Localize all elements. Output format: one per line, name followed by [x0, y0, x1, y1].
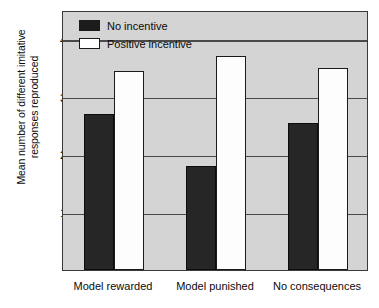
bar-model-rewarded-positive-incentive [114, 71, 144, 270]
bar-model-punished-positive-incentive [216, 56, 246, 270]
legend-item-positive-incentive: Positive incentive [79, 36, 192, 51]
x-tick-label-model-rewarded: Model rewarded [74, 280, 153, 292]
legend-swatch-positive-incentive [79, 38, 100, 49]
y-axis-title-line-1: Mean number of different imitative [15, 29, 28, 184]
bar-chart-figure: Mean number of different imitative respo… [0, 0, 379, 308]
plot-area: No incentive Positive incentive [62, 11, 368, 271]
legend-label-no-incentive: No incentive [107, 20, 168, 32]
bar-model-punished-no-incentive [186, 166, 216, 270]
legend: No incentive Positive incentive [79, 18, 192, 51]
bar-no-consequences-no-incentive [288, 123, 318, 270]
x-tick-label-no-consequences: No consequences [273, 280, 361, 292]
legend-item-no-incentive: No incentive [79, 18, 192, 33]
y-axis-title: Mean number of different imitative respo… [11, 7, 45, 207]
bar-model-rewarded-no-incentive [84, 114, 114, 270]
legend-label-positive-incentive: Positive incentive [107, 38, 192, 50]
bar-no-consequences-positive-incentive [318, 68, 348, 270]
x-tick-label-model-punished: Model punished [176, 280, 254, 292]
y-axis-title-line-2: responses reproduced [28, 56, 41, 158]
legend-swatch-no-incentive [79, 20, 100, 31]
